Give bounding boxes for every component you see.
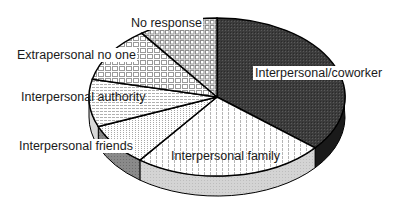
label-coworker: Interpersonal/coworker — [253, 66, 384, 80]
label-family: Interpersonal family — [171, 149, 280, 163]
label-no-response: No response — [130, 16, 203, 30]
label-authority: Interpersonal authority — [21, 90, 145, 104]
label-extrapersonal: Extrapersonal no one — [16, 48, 137, 62]
pie-chart — [0, 0, 401, 210]
label-friends: Interpersonal friends — [18, 139, 134, 153]
